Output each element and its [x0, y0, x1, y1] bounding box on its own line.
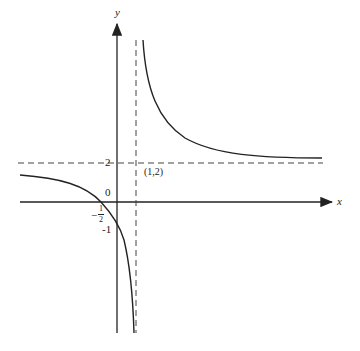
y-tick-neg1-label: -1 — [102, 224, 111, 235]
fraction-numerator: 1 — [99, 205, 103, 213]
y-tick-2-label: 2 — [105, 157, 111, 168]
curve-right-branch — [143, 40, 322, 158]
x-intercept-fraction: 1 2 — [98, 205, 104, 224]
y-axis-label: y — [115, 7, 120, 18]
point-label: (1,2) — [144, 167, 163, 177]
graph-canvas — [0, 0, 360, 351]
x-axis-label: x — [337, 196, 342, 207]
x-intercept-sign: − — [91, 210, 97, 221]
origin-label: 0 — [105, 187, 111, 198]
fraction-denominator: 2 — [99, 216, 103, 224]
function-graph: y x 0 2 (1,2) -1 − 1 2 — [0, 0, 360, 351]
